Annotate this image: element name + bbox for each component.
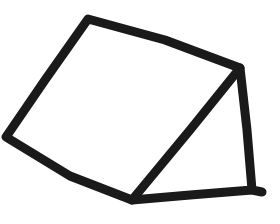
quadrilateral-shape xyxy=(6,19,240,200)
sketch-canvas xyxy=(0,0,280,224)
